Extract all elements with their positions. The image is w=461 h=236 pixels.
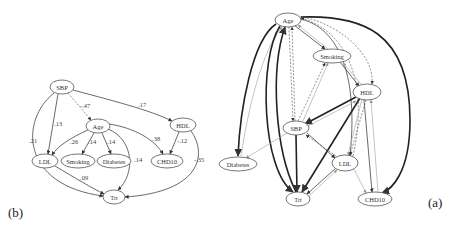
edge-weight-label: .14 [134, 156, 143, 163]
edge-13 [298, 63, 325, 121]
edge-8 [300, 19, 352, 156]
a-node-chd10: CHD10 [358, 192, 392, 206]
edge-15 [343, 63, 362, 85]
b-node-ldl: LDL [32, 154, 58, 168]
node-label: Trt [294, 196, 302, 203]
edge-weight-label: -.12 [177, 137, 187, 144]
edge-12 [303, 63, 328, 121]
node-label: SBP [56, 84, 68, 91]
panel-b-edges: -.47.17.13.21.26.14.14.38.14-.12-.35.09 [29, 90, 204, 197]
edge-0 [238, 24, 276, 156]
edge-weight-label: .38 [152, 135, 160, 142]
a-node-hdl: HDL [353, 84, 381, 100]
node-label: Smoking [320, 53, 344, 60]
edge-16 [305, 97, 356, 124]
node-label: SBP [290, 125, 302, 132]
a-node-trt: Trt [286, 192, 310, 206]
node-label: CHD10 [157, 158, 177, 165]
node-label: HDL [176, 122, 189, 129]
b-node-age: Age [86, 119, 110, 133]
b-node-sbp: SBP [50, 80, 74, 94]
panel-a-nodes: AgeSmokingHDLSBPDiabetesLDLTrtCHD10 [219, 13, 392, 206]
node-label: Trt [110, 194, 118, 201]
diagram-canvas: -.47.17.13.21.26.14.14.38.14-.12-.35.09 … [0, 0, 461, 236]
edge-weight-label: .26 [70, 138, 79, 145]
edge-27 [307, 168, 336, 194]
node-label: Smoking [66, 158, 90, 165]
b-node-smoking: Smoking [61, 154, 95, 168]
edge-weight-label: .13 [54, 120, 62, 127]
edge-17 [306, 101, 356, 127]
edge-22 [371, 100, 378, 192]
node-label: Age [93, 123, 104, 130]
a-node-age: Age [275, 13, 301, 27]
b-node-chd10: CHD10 [151, 154, 183, 168]
b-node-hdl: HDL [170, 118, 196, 132]
edge-4 [289, 27, 293, 121]
edge-23 [296, 135, 297, 192]
a-node-smoking: Smoking [313, 49, 351, 63]
node-label: Age [283, 17, 294, 24]
node-label: HDL [360, 89, 373, 96]
b-node-diabetes: Diabetes [97, 154, 131, 168]
edge-20 [350, 100, 366, 155]
b-node-trt: Trt [103, 190, 125, 204]
edge-5 [292, 27, 295, 121]
node-label: LDL [339, 160, 352, 167]
node-label: Diabetes [227, 161, 250, 168]
panel-label-b: (b) [8, 205, 23, 221]
edge-6 [294, 25, 325, 49]
edge-weight-label: .14 [88, 138, 97, 145]
edge-weight-label: .17 [138, 101, 147, 108]
node-label: Diabetes [103, 158, 126, 165]
panel-a-edges [238, 17, 410, 196]
a-node-sbp: SBP [283, 121, 309, 135]
panel-label-a: (a) [428, 195, 442, 211]
edge-weight-label: .09 [80, 174, 88, 181]
edge-21 [364, 100, 372, 192]
edge-29 [354, 169, 366, 193]
a-node-ldl: LDL [332, 155, 358, 171]
node-label: LDL [39, 158, 52, 165]
a-node-diabetes: Diabetes [219, 157, 257, 171]
edge-weight-label: -.47 [80, 102, 91, 109]
edge-weight-label: .21 [29, 137, 37, 144]
edge-3 [276, 27, 296, 192]
edge-weight-label: .14 [107, 138, 116, 145]
edge-14 [340, 62, 359, 86]
node-label: CHD10 [365, 196, 385, 203]
edge-weight-label: -.35 [194, 156, 204, 163]
